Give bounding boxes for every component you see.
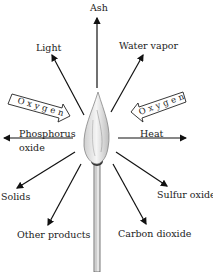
label-solids: Solids xyxy=(1,192,30,202)
label-sulfur-oxide: Sulfur oxide xyxy=(157,190,213,200)
label-water-vapor: Water vapor xyxy=(119,41,178,51)
match-stick xyxy=(91,156,103,272)
label-phosphorus-oxide-line1: Phosphorus xyxy=(19,129,76,139)
label-light: Light xyxy=(36,43,61,53)
label-heat: Heat xyxy=(140,129,163,139)
label-ash: Ash xyxy=(90,3,108,13)
label-phosphorus-oxide-line2: oxide xyxy=(19,143,45,153)
oxygen-label-left: Oxygen xyxy=(16,95,67,119)
arrow-carbon-dioxide xyxy=(113,164,146,224)
arrow-other-products xyxy=(48,164,81,225)
match-combustion-diagram: Oxygen Oxygen Ash Light Water vapor Phos… xyxy=(0,0,213,272)
arrow-sulfur-oxide xyxy=(116,152,167,186)
label-other-products: Other products xyxy=(17,230,90,240)
label-carbon-dioxide: Carbon dioxide xyxy=(118,229,191,239)
arrow-solids xyxy=(17,152,75,188)
flame xyxy=(84,92,109,164)
